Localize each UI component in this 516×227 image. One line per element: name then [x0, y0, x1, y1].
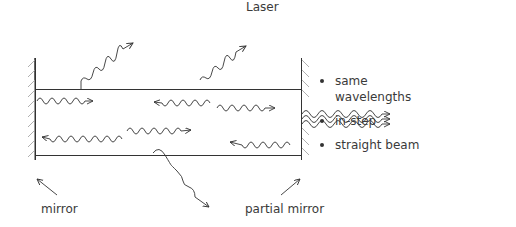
- property-straight-beam: straight beam: [318, 137, 419, 153]
- mirror-label: mirror: [41, 202, 78, 216]
- properties-list: same wavelengths in-step straight beam: [318, 73, 419, 161]
- mirror-pointer: [37, 179, 57, 195]
- wave-right-3: [127, 128, 191, 134]
- property-text: wavelengths: [335, 89, 419, 105]
- wave-escape-2: [200, 46, 246, 80]
- left-mirror-hatch: [28, 60, 35, 157]
- property-text: in-step: [335, 113, 419, 129]
- property-text: straight beam: [335, 137, 419, 153]
- property-text: same: [335, 73, 419, 89]
- laser-diagram-main: [0, 0, 516, 227]
- wave-escape-1: [81, 43, 133, 89]
- wave-left-3: [230, 142, 290, 148]
- wave-right-1: [37, 98, 93, 104]
- wave-left-1: [154, 100, 210, 106]
- wave-left-2: [42, 136, 122, 142]
- wave-escape-3: [153, 149, 209, 207]
- wave-right-2: [217, 105, 275, 111]
- right-mirror-hatch: [302, 60, 309, 155]
- partial-mirror-pointer: [281, 179, 300, 195]
- property-in-step: in-step: [318, 113, 419, 129]
- partial-mirror-label: partial mirror: [245, 202, 324, 216]
- property-same-wavelengths: same wavelengths: [318, 73, 419, 105]
